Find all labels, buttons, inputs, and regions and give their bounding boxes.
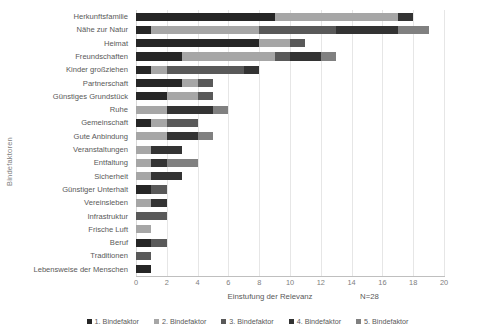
stacked-bar[interactable] <box>136 212 167 220</box>
bar-segment[interactable] <box>244 66 259 74</box>
bar-segment[interactable] <box>336 26 398 34</box>
stacked-bar[interactable] <box>136 66 259 74</box>
y-tick-label: Kinder großziehen <box>66 63 128 76</box>
stacked-bar[interactable] <box>136 92 213 100</box>
bar-segment[interactable] <box>167 92 198 100</box>
bar-segment[interactable] <box>136 185 151 193</box>
stacked-bar[interactable] <box>136 239 167 247</box>
bar-segment[interactable] <box>259 26 336 34</box>
bar-segment[interactable] <box>136 66 151 74</box>
stacked-bar-chart: Bindefaktoren HerkunftsfamilieNähe zur N… <box>0 0 495 334</box>
y-tick-label: Vereinsleben <box>84 196 128 209</box>
bar-segment[interactable] <box>151 146 182 154</box>
bar-segment[interactable] <box>136 79 182 87</box>
bar-segment[interactable] <box>151 199 166 207</box>
bar-row <box>136 10 444 23</box>
bar-row <box>136 196 444 209</box>
bar-row <box>136 130 444 143</box>
legend-swatch-icon <box>87 319 92 324</box>
bar-segment[interactable] <box>136 13 275 21</box>
bar-row <box>136 210 444 223</box>
stacked-bar[interactable] <box>136 132 213 140</box>
bar-segment[interactable] <box>136 239 151 247</box>
bar-segment[interactable] <box>136 92 167 100</box>
bar-segment[interactable] <box>259 39 290 47</box>
stacked-bar[interactable] <box>136 225 151 233</box>
legend-swatch-icon <box>154 319 159 324</box>
bar-segment[interactable] <box>275 52 290 60</box>
bar-segment[interactable] <box>321 52 336 60</box>
bar-segment[interactable] <box>151 119 166 127</box>
bar-segment[interactable] <box>398 13 413 21</box>
bar-row <box>136 77 444 90</box>
stacked-bar[interactable] <box>136 13 413 21</box>
stacked-bar[interactable] <box>136 39 305 47</box>
stacked-bar[interactable] <box>136 106 228 114</box>
bar-segment[interactable] <box>398 26 429 34</box>
y-tick-label: Infrastruktur <box>87 210 128 223</box>
stacked-bar[interactable] <box>136 52 336 60</box>
stacked-bar[interactable] <box>136 265 151 273</box>
bar-segment[interactable] <box>136 225 151 233</box>
bar-segment[interactable] <box>136 119 151 127</box>
y-tick-label: Lebensweise der Menschen <box>33 263 128 276</box>
bar-segment[interactable] <box>136 26 151 34</box>
bar-segment[interactable] <box>290 52 321 60</box>
bar-segment[interactable] <box>167 106 213 114</box>
bar-segment[interactable] <box>198 92 213 100</box>
legend-item[interactable]: 3. Bindefaktor <box>221 317 273 326</box>
bar-row <box>136 37 444 50</box>
y-tick-label: Sicherheit <box>94 170 128 183</box>
bar-segment[interactable] <box>151 159 166 167</box>
stacked-bar[interactable] <box>136 185 167 193</box>
stacked-bar[interactable] <box>136 172 182 180</box>
bar-segment[interactable] <box>198 132 213 140</box>
bar-segment[interactable] <box>167 159 198 167</box>
bar-segment[interactable] <box>136 199 151 207</box>
bar-segment[interactable] <box>136 252 151 260</box>
legend-item[interactable]: 4. Bindefaktor <box>289 317 341 326</box>
stacked-bar[interactable] <box>136 252 151 260</box>
bar-segment[interactable] <box>290 39 305 47</box>
x-tick-label: 18 <box>401 278 425 287</box>
bar-segment[interactable] <box>182 79 197 87</box>
bar-segment[interactable] <box>136 106 167 114</box>
bar-segment[interactable] <box>198 79 213 87</box>
y-tick-label: Gute Anbindung <box>74 130 128 143</box>
bar-segment[interactable] <box>136 132 167 140</box>
legend-swatch-icon <box>356 319 361 324</box>
bar-segment[interactable] <box>136 172 151 180</box>
bar-segment[interactable] <box>213 106 228 114</box>
bar-segment[interactable] <box>136 39 259 47</box>
bar-segment[interactable] <box>151 66 166 74</box>
x-tick-label: 12 <box>309 278 333 287</box>
y-axis-tick-labels: HerkunftsfamilieNähe zur NaturHeimatFreu… <box>0 10 132 276</box>
bar-segment[interactable] <box>182 52 274 60</box>
bar-segment[interactable] <box>136 52 182 60</box>
bar-segment[interactable] <box>151 239 166 247</box>
stacked-bar[interactable] <box>136 79 213 87</box>
stacked-bar[interactable] <box>136 146 182 154</box>
y-tick-label: Herkunftsfamilie <box>74 10 128 23</box>
bar-segment[interactable] <box>151 185 166 193</box>
stacked-bar[interactable] <box>136 26 429 34</box>
bar-segment[interactable] <box>167 66 244 74</box>
bar-row <box>136 50 444 63</box>
stacked-bar[interactable] <box>136 159 198 167</box>
bar-segment[interactable] <box>136 212 167 220</box>
legend-item[interactable]: 5. Bindefaktor <box>356 317 408 326</box>
bar-segment[interactable] <box>167 119 198 127</box>
bar-segment[interactable] <box>151 26 259 34</box>
bar-segment[interactable] <box>136 265 151 273</box>
y-tick-label: Nähe zur Natur <box>77 23 129 36</box>
bar-segment[interactable] <box>136 146 151 154</box>
bar-segment[interactable] <box>167 132 198 140</box>
stacked-bar[interactable] <box>136 119 198 127</box>
stacked-bar[interactable] <box>136 199 167 207</box>
legend-item[interactable]: 2. Bindefaktor <box>154 317 206 326</box>
bar-segment[interactable] <box>151 172 182 180</box>
bar-segment[interactable] <box>136 159 151 167</box>
legend-item[interactable]: 1. Bindefaktor <box>87 317 139 326</box>
bar-segment[interactable] <box>275 13 398 21</box>
legend-swatch-icon <box>221 319 226 324</box>
